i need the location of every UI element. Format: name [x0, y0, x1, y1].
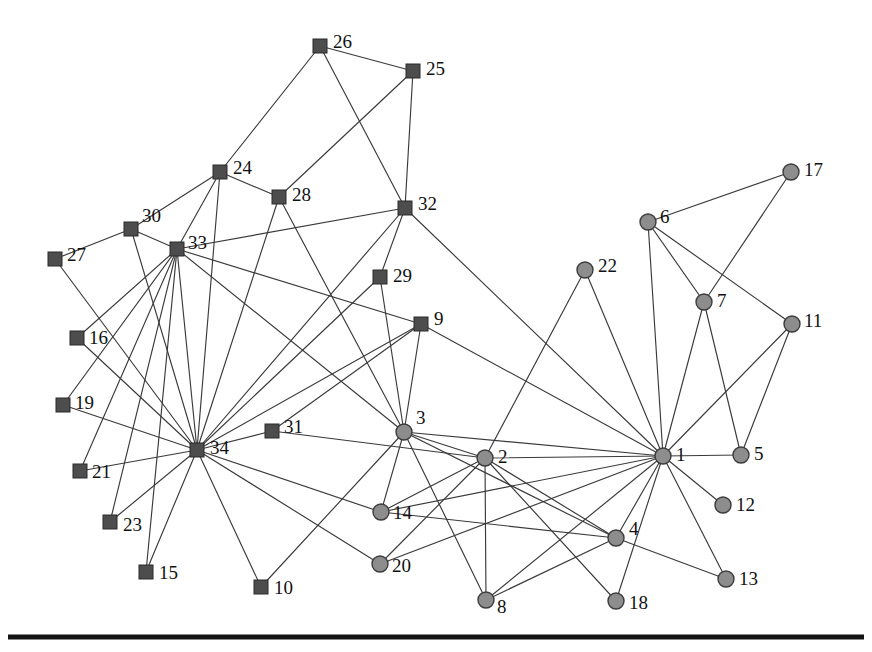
node-square-marker[interactable] — [265, 424, 279, 438]
graph-node-23[interactable]: 23 — [103, 514, 142, 535]
node-square-marker[interactable] — [73, 464, 87, 478]
node-square-marker[interactable] — [254, 580, 268, 594]
graph-edge — [220, 46, 320, 172]
graph-edge — [197, 172, 220, 450]
graph-edge — [404, 432, 616, 538]
node-square-marker[interactable] — [213, 165, 227, 179]
node-label-21: 21 — [92, 461, 111, 482]
graph-node-2[interactable]: 2 — [477, 446, 508, 467]
node-circle-marker[interactable] — [715, 497, 731, 513]
node-square-marker[interactable] — [48, 252, 62, 266]
node-circle-marker[interactable] — [577, 262, 593, 278]
graph-node-29[interactable]: 29 — [373, 265, 412, 286]
node-label-7: 7 — [717, 290, 727, 311]
node-square-marker[interactable] — [139, 565, 153, 579]
graph-node-7[interactable]: 7 — [696, 290, 727, 311]
graph-edge — [485, 456, 663, 458]
graph-node-25[interactable]: 25 — [406, 58, 445, 79]
graph-edge — [405, 208, 663, 456]
node-label-34: 34 — [210, 437, 230, 458]
graph-edge — [704, 302, 741, 455]
node-circle-marker[interactable] — [655, 448, 671, 464]
graph-node-10[interactable]: 10 — [254, 577, 293, 598]
graph-edge — [177, 249, 421, 324]
graph-node-13[interactable]: 13 — [718, 568, 758, 589]
graph-edge — [197, 324, 421, 450]
node-label-20: 20 — [392, 555, 411, 576]
node-square-marker[interactable] — [398, 201, 412, 215]
node-square-marker[interactable] — [373, 270, 387, 284]
node-label-24: 24 — [233, 157, 253, 178]
node-square-marker[interactable] — [124, 222, 138, 236]
graph-edge — [663, 455, 741, 456]
graph-node-26[interactable]: 26 — [313, 31, 352, 53]
node-label-16: 16 — [89, 327, 108, 348]
node-circle-marker[interactable] — [477, 450, 493, 466]
node-circle-marker[interactable] — [608, 530, 624, 546]
graph-edge — [380, 456, 663, 564]
node-square-marker[interactable] — [272, 190, 286, 204]
graph-node-24[interactable]: 24 — [213, 157, 253, 179]
graph-edge — [704, 172, 791, 302]
graph-node-18[interactable]: 18 — [608, 592, 648, 613]
node-circle-marker[interactable] — [783, 164, 799, 180]
graph-edge — [663, 456, 723, 505]
node-square-marker[interactable] — [414, 317, 428, 331]
graph-node-16[interactable]: 16 — [70, 327, 108, 348]
node-square-marker[interactable] — [313, 39, 327, 53]
graph-edge — [585, 270, 663, 456]
graph-node-22[interactable]: 22 — [577, 255, 617, 278]
graph-node-31[interactable]: 31 — [265, 416, 303, 438]
node-square-marker[interactable] — [103, 515, 117, 529]
graph-node-6[interactable]: 6 — [640, 206, 670, 230]
graph-edge — [131, 229, 197, 450]
graph-edge — [648, 222, 663, 456]
graph-node-17[interactable]: 17 — [783, 159, 823, 180]
node-circle-marker[interactable] — [784, 316, 800, 332]
node-circle-marker[interactable] — [478, 592, 494, 608]
graph-node-14[interactable]: 14 — [373, 502, 413, 523]
node-label-19: 19 — [75, 392, 94, 413]
node-label-33: 33 — [188, 232, 207, 253]
graph-node-28[interactable]: 28 — [272, 184, 311, 205]
node-circle-marker[interactable] — [372, 556, 388, 572]
graph-node-27[interactable]: 27 — [48, 244, 86, 266]
graph-node-32[interactable]: 32 — [398, 193, 437, 215]
graph-node-15[interactable]: 15 — [139, 562, 178, 583]
node-square-marker[interactable] — [170, 242, 184, 256]
node-square-marker[interactable] — [70, 331, 84, 345]
node-circle-marker[interactable] — [373, 504, 389, 520]
node-circle-marker[interactable] — [396, 424, 412, 440]
node-circle-marker[interactable] — [696, 294, 712, 310]
node-square-marker[interactable] — [190, 443, 204, 457]
network-graph-canvas: 1234567891011121314151617181920212223242… — [0, 0, 872, 652]
node-square-marker[interactable] — [406, 64, 420, 78]
graph-edge — [279, 71, 413, 197]
graph-node-33[interactable]: 33 — [170, 232, 207, 256]
node-label-32: 32 — [418, 193, 437, 214]
graph-edge — [197, 197, 279, 450]
node-label-8: 8 — [497, 596, 507, 617]
node-circle-marker[interactable] — [733, 447, 749, 463]
node-circle-marker[interactable] — [608, 593, 624, 609]
graph-node-21[interactable]: 21 — [73, 461, 111, 482]
graph-edge — [741, 324, 792, 455]
node-label-2: 2 — [498, 446, 508, 467]
node-circle-marker[interactable] — [718, 571, 734, 587]
graph-node-4[interactable]: 4 — [608, 518, 639, 546]
graph-node-19[interactable]: 19 — [56, 392, 94, 413]
graph-node-12[interactable]: 12 — [715, 494, 755, 515]
graph-edge — [197, 431, 272, 450]
graph-node-8[interactable]: 8 — [478, 592, 507, 617]
node-circle-marker[interactable] — [640, 214, 656, 230]
graph-node-5[interactable]: 5 — [733, 443, 764, 464]
graph-edge — [405, 71, 413, 208]
node-square-marker[interactable] — [56, 398, 70, 412]
graph-node-20[interactable]: 20 — [372, 555, 411, 576]
graph-node-30[interactable]: 30 — [124, 205, 161, 236]
node-label-13: 13 — [739, 568, 758, 589]
node-label-14: 14 — [393, 502, 413, 523]
graph-node-11[interactable]: 11 — [784, 310, 822, 332]
graph-edge — [177, 208, 405, 249]
node-label-12: 12 — [736, 494, 755, 515]
